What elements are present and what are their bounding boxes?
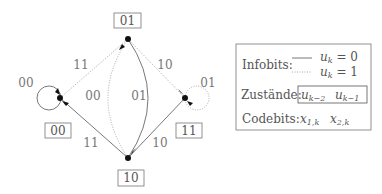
legend-solid-text: uk = 0 <box>320 50 358 65</box>
node-01 <box>125 36 131 42</box>
node-11 <box>182 95 188 101</box>
state-diagram: 01 00 11 10 00 11 00 01 10 01 11 10 Info… <box>0 0 382 194</box>
state-label-00: 00 <box>50 124 65 138</box>
legend-zustaende-label: Zustände: <box>241 88 302 102</box>
edge-label-00-01: 11 <box>73 58 88 72</box>
edge-label-00-00: 00 <box>18 76 33 90</box>
legend-dotted-text: uk = 1 <box>320 65 358 80</box>
edge-label-10-00: 11 <box>83 136 98 150</box>
legend-codebits-label: Codebits: <box>242 112 300 126</box>
arrowhead-icon <box>187 101 193 106</box>
legend-infobits-label: Infobits: <box>242 58 293 72</box>
state-label-01: 01 <box>120 14 135 28</box>
edge-label-10-11: 10 <box>152 136 167 150</box>
edge-01-10-dotted <box>108 39 128 158</box>
edge-label-01-10-solid: 01 <box>131 89 146 103</box>
state-label-11: 11 <box>181 124 196 138</box>
edge-label-01-10-dotted: 00 <box>85 89 100 103</box>
arrowhead-icon <box>119 44 125 50</box>
edge-label-01-11: 10 <box>157 58 172 72</box>
node-00 <box>57 95 63 101</box>
edge-label-11-11: 01 <box>200 76 215 90</box>
node-10 <box>125 155 131 161</box>
state-label-10: 10 <box>123 171 138 185</box>
